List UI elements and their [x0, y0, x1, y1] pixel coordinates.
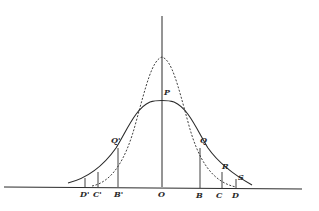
baseline	[4, 187, 302, 189]
label-q: Q	[200, 136, 207, 144]
label-o: O	[158, 190, 165, 198]
label-b: B	[196, 191, 203, 199]
bell-curve-diagram	[0, 0, 319, 211]
dashed-curve	[92, 57, 236, 187]
label-c: C	[216, 191, 222, 199]
label-r: R	[222, 162, 229, 170]
label-q-prime: Q'	[111, 136, 120, 144]
label-d: D	[232, 191, 239, 199]
label-c-prime: C'	[93, 190, 102, 198]
label-p: P	[164, 88, 170, 96]
label-s: S	[238, 173, 244, 181]
solid-curve	[68, 101, 252, 186]
label-b-prime: B'	[114, 190, 123, 198]
label-d-prime: D'	[80, 190, 89, 198]
